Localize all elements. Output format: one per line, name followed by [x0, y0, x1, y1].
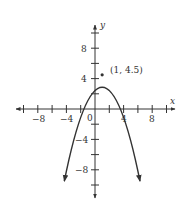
y-tick-label-neg4: −4	[75, 135, 89, 145]
graph-figure: (1, 4.5) y x 0 −8 −4 4 8 8 4 −4 −8	[0, 0, 188, 203]
x-tick-label-neg4: −4	[60, 114, 74, 124]
x-tick-label-8: 8	[149, 114, 155, 124]
vertex-label: (1, 4.5)	[110, 65, 143, 75]
y-axis-label: y	[99, 20, 106, 30]
x-tick-label-neg8: −8	[32, 114, 46, 124]
y-tick-label-8: 8	[81, 44, 87, 54]
y-tick-label-4: 4	[81, 74, 87, 84]
x-tick-label-4: 4	[121, 114, 127, 124]
y-tick-label-neg8: −8	[75, 165, 89, 175]
x-axis-label: x	[170, 96, 175, 106]
vertex-point	[101, 73, 104, 76]
origin-label: 0	[87, 113, 93, 123]
parabola-graph: (1, 4.5) y x 0 −8 −4 4 8 8 4 −4 −8	[0, 0, 188, 203]
